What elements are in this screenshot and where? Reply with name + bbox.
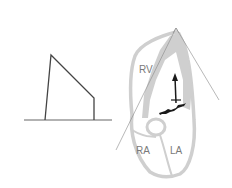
- label-ra: RA: [136, 145, 150, 156]
- waveform-schematic: [24, 55, 112, 120]
- sector-line-left: [116, 28, 176, 150]
- flow-arrow-head: [172, 73, 178, 81]
- label-la: LA: [170, 145, 183, 156]
- regurgitant-jet: [159, 103, 186, 115]
- fossa-ovalis: [147, 119, 165, 135]
- diagram-canvas: RV RA LA: [0, 0, 232, 188]
- heart-diagram: RV RA LA: [116, 28, 219, 177]
- trapezoid-trace: [45, 55, 94, 120]
- label-rv: RV: [139, 64, 153, 75]
